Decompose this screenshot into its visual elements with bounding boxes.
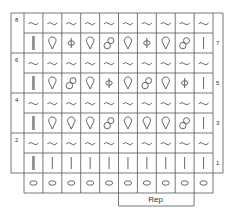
row-label-right: 7	[216, 40, 219, 46]
drop-icon	[68, 117, 75, 129]
wave-icon	[161, 23, 171, 25]
oval-icon	[87, 181, 94, 185]
drop-icon	[143, 117, 150, 129]
wave-icon	[142, 103, 152, 105]
wave-icon	[199, 63, 209, 65]
wave-icon	[123, 103, 133, 105]
phi-icon	[106, 78, 112, 88]
oval-icon	[181, 181, 188, 185]
wave-icon	[199, 103, 209, 105]
eight-icon	[104, 118, 114, 129]
drop-icon	[86, 37, 93, 49]
wave-icon	[104, 63, 114, 65]
drop-icon	[124, 77, 131, 89]
wave-icon	[142, 63, 152, 65]
wave-icon	[85, 63, 95, 65]
wave-icon	[123, 143, 133, 145]
wave-icon	[47, 63, 57, 65]
wave-icon	[28, 103, 38, 105]
phi-icon	[181, 78, 187, 88]
row-label-left: 6	[15, 57, 18, 63]
wave-icon	[161, 143, 171, 145]
drop-icon	[162, 37, 169, 49]
row-label-left: 4	[15, 97, 18, 103]
chart-grid	[0, 0, 236, 212]
wave-icon	[66, 143, 76, 145]
oval-icon	[30, 181, 37, 185]
wave-icon	[104, 103, 114, 105]
wave-icon	[66, 103, 76, 105]
oval-icon	[49, 181, 56, 185]
eight-icon	[104, 38, 114, 49]
wave-icon	[66, 23, 76, 25]
drop-icon	[162, 77, 169, 89]
double-bar-icon	[32, 76, 35, 90]
drop-icon	[49, 37, 56, 49]
phi-icon	[144, 38, 150, 48]
repeat-label: Rep	[148, 195, 163, 204]
wave-icon	[142, 143, 152, 145]
oval-icon	[105, 181, 112, 185]
wave-icon	[123, 23, 133, 25]
oval-icon	[200, 181, 207, 185]
drop-icon	[49, 77, 56, 89]
eight-icon	[142, 78, 152, 89]
wave-icon	[85, 143, 95, 145]
wave-icon	[28, 143, 38, 145]
wave-icon	[161, 103, 171, 105]
wave-icon	[180, 143, 190, 145]
double-bar-icon	[32, 156, 35, 170]
wave-icon	[180, 63, 190, 65]
drop-icon	[124, 37, 131, 49]
wave-icon	[180, 23, 190, 25]
wave-icon	[47, 23, 57, 25]
wave-icon	[161, 63, 171, 65]
wave-icon	[199, 143, 209, 145]
wave-icon	[180, 103, 190, 105]
double-bar-icon	[32, 36, 35, 50]
wave-icon	[28, 63, 38, 65]
oval-icon	[124, 181, 131, 185]
phi-icon	[68, 38, 74, 48]
wave-icon	[104, 23, 114, 25]
wave-icon	[66, 63, 76, 65]
wave-icon	[47, 103, 57, 105]
wave-icon	[28, 23, 38, 25]
eight-icon	[180, 38, 190, 49]
oval-icon	[68, 181, 75, 185]
wave-icon	[199, 23, 209, 25]
oval-icon	[143, 181, 150, 185]
drop-icon	[162, 117, 169, 129]
oval-icon	[162, 181, 169, 185]
row-label-left: 8	[15, 17, 18, 23]
eight-icon	[66, 78, 76, 89]
wave-icon	[123, 63, 133, 65]
drop-icon	[86, 117, 93, 129]
wave-icon	[104, 143, 114, 145]
wave-icon	[85, 103, 95, 105]
wave-icon	[47, 143, 57, 145]
eight-icon	[180, 118, 190, 129]
drop-icon	[124, 117, 131, 129]
knitting-chart: 86427531 Rep	[0, 0, 236, 212]
drop-icon	[86, 77, 93, 89]
row-label-right: 3	[216, 120, 219, 126]
wave-icon	[142, 23, 152, 25]
row-label-left: 2	[15, 137, 18, 143]
drop-icon	[49, 117, 56, 129]
row-label-right: 1	[216, 160, 219, 166]
row-label-right: 5	[216, 80, 219, 86]
double-bar-icon	[32, 116, 35, 130]
wave-icon	[85, 23, 95, 25]
